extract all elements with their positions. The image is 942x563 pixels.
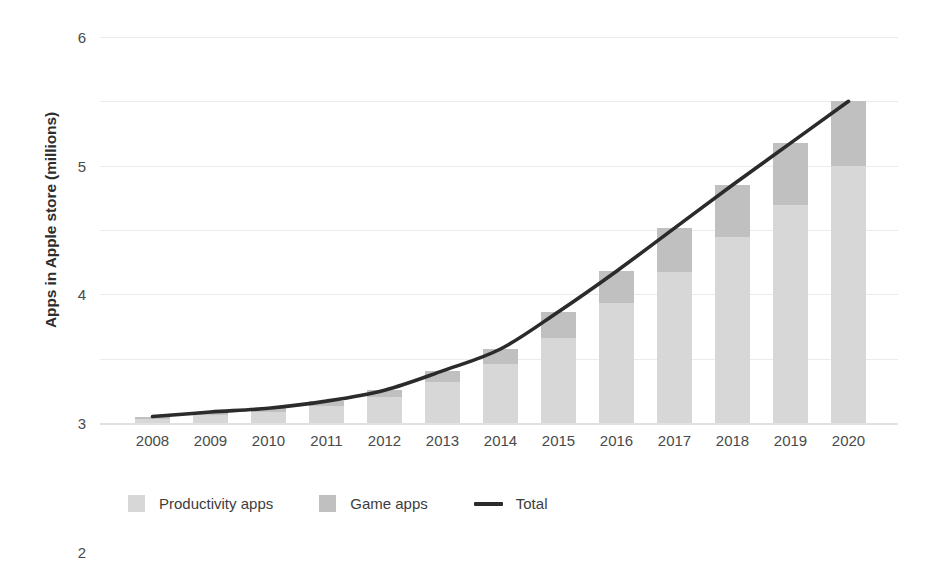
x-tick-label-2013: 2013 (413, 432, 473, 449)
x-tick-label-2008: 2008 (123, 432, 183, 449)
total-line-path (153, 101, 849, 416)
x-tick-label-2009: 2009 (181, 432, 241, 449)
total-line-svg (100, 37, 898, 423)
x-tick-label-2010: 2010 (239, 432, 299, 449)
legend-label: Game apps (350, 495, 428, 512)
legend-label: Total (516, 495, 548, 512)
legend-swatch-icon (319, 495, 336, 512)
legend-item-game-apps[interactable]: Game apps (319, 495, 428, 512)
x-tick-label-2012: 2012 (355, 432, 415, 449)
y-tick-label-5: 5 (46, 158, 86, 173)
x-tick-label-2019: 2019 (761, 432, 821, 449)
x-tick-label-2018: 2018 (703, 432, 763, 449)
plot-area: 0123456 (100, 37, 898, 423)
chart-container: Apps in Apple store (millions) 0123456 2… (0, 0, 942, 563)
x-tick-label-2020: 2020 (819, 432, 879, 449)
gridline-0: 0 (100, 423, 898, 425)
y-axis-title: Apps in Apple store (millions) (34, 0, 68, 440)
legend-label: Productivity apps (159, 495, 273, 512)
x-tick-label-2015: 2015 (529, 432, 589, 449)
x-tick-label-2014: 2014 (471, 432, 531, 449)
chart-legend: Productivity appsGame appsTotal (128, 495, 593, 512)
y-tick-label-3: 3 (46, 416, 86, 431)
x-tick-label-2016: 2016 (587, 432, 647, 449)
x-tick-label-2011: 2011 (297, 432, 357, 449)
legend-line-marker-icon (474, 502, 503, 506)
y-tick-label-6: 6 (46, 30, 86, 45)
y-tick-label-2: 2 (46, 544, 86, 559)
legend-swatch-icon (128, 495, 145, 512)
legend-item-productivity-apps[interactable]: Productivity apps (128, 495, 273, 512)
y-tick-label-4: 4 (46, 287, 86, 302)
total-line-group (100, 37, 898, 423)
x-tick-label-2017: 2017 (645, 432, 705, 449)
legend-item-total[interactable]: Total (474, 495, 548, 512)
